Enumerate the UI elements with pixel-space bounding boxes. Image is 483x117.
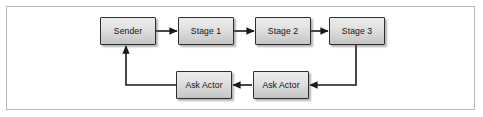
node-label: Ask Actor [185, 81, 222, 90]
edge-askactor1-to-sender [126, 46, 176, 85]
node-label: Stage 3 [342, 27, 372, 36]
diagram-figure: SenderStage 1Stage 2Stage 3Ask ActorAsk … [0, 0, 483, 117]
node-label: Sender [114, 27, 142, 36]
diagram-edges-canvas [0, 0, 483, 117]
node-label: Ask Actor [262, 81, 299, 90]
node-stage2[interactable]: Stage 2 [255, 17, 311, 45]
node-label: Stage 2 [268, 27, 298, 36]
node-stage3[interactable]: Stage 3 [329, 17, 385, 45]
node-label: Stage 1 [191, 27, 221, 36]
edge-stage3-to-askactor2 [310, 45, 356, 85]
node-sender[interactable]: Sender [100, 17, 156, 45]
node-stage1[interactable]: Stage 1 [178, 17, 234, 45]
node-askactor2[interactable]: Ask Actor [253, 71, 309, 99]
node-askactor1[interactable]: Ask Actor [176, 71, 232, 99]
